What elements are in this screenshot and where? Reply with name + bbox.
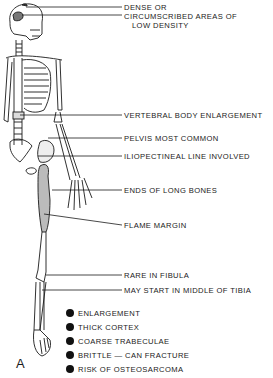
- feature-text: BRITTLE — CAN FRACTURE: [78, 351, 189, 360]
- feature-item: THICK CORTEX: [66, 320, 189, 334]
- callout-skull-dense: DENSE OR: [124, 3, 167, 12]
- feature-text: COARSE TRABECULAE: [78, 337, 169, 346]
- feature-item: RISK OF OSTEOSARCOMA: [66, 362, 189, 376]
- bullet-icon: [66, 337, 74, 345]
- bullet-icon: [66, 351, 74, 359]
- callout-skull-lucent-2: LOW DENSITY: [132, 21, 189, 30]
- feature-text: ENLARGEMENT: [78, 309, 140, 318]
- callout-flame: FLAME MARGIN: [124, 221, 187, 230]
- bullet-icon: [66, 309, 74, 317]
- feature-item: BRITTLE — CAN FRACTURE: [66, 348, 189, 362]
- bullet-icon: [66, 323, 74, 331]
- callout-vertebra: VERTEBRAL BODY ENLARGEMENT: [124, 111, 263, 120]
- callout-long-bones: ENDS OF LONG BONES: [124, 186, 217, 195]
- panel-label: A: [16, 356, 25, 371]
- skull-icon: [10, 4, 43, 40]
- feature-item: ENLARGEMENT: [66, 306, 189, 320]
- callout-fibula: RARE IN FIBULA: [124, 271, 189, 280]
- feature-item: COARSE TRABECULAE: [66, 334, 189, 348]
- callout-pelvis: PELVIS MOST COMMON: [124, 134, 219, 143]
- bullet-icon: [66, 365, 74, 373]
- callout-skull-lucent: CIRCUMSCRIBED AREAS OF: [124, 12, 237, 21]
- callout-tibia: MAY START IN MIDDLE OF TIBIA: [124, 286, 251, 295]
- feature-text: RISK OF OSTEOSARCOMA: [78, 365, 183, 374]
- feature-text: THICK CORTEX: [78, 323, 139, 332]
- callout-iliopectineal: ILIOPECTINEAL LINE INVOLVED: [124, 152, 250, 161]
- feature-list: ENLARGEMENT THICK CORTEX COARSE TRABECUL…: [66, 306, 189, 376]
